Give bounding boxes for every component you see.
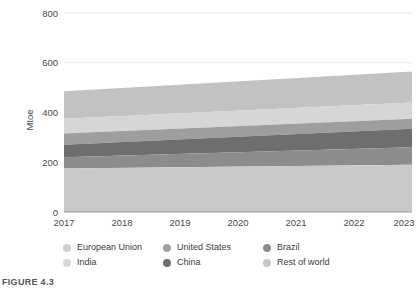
- x-tick-2020: 2020: [227, 217, 248, 228]
- legend-item-rest-of-world[interactable]: Rest of world: [263, 258, 373, 267]
- legend-label-china: China: [177, 258, 201, 267]
- legend-label-rest-of-world: Rest of world: [277, 258, 330, 267]
- legend-swatch-european-union-icon: [63, 244, 71, 252]
- x-tick-2022: 2022: [343, 217, 364, 228]
- y-tick-400: 400: [42, 107, 58, 118]
- legend-label-india: India: [77, 258, 97, 267]
- y-tick-800: 800: [42, 8, 58, 19]
- legend-row-1: European Union United States Brazil: [63, 240, 417, 255]
- series-bands: [64, 71, 412, 212]
- x-tick-2023: 2023: [393, 217, 414, 228]
- legend-swatch-united-states-icon: [163, 244, 171, 252]
- legend-swatch-rest-of-world-icon: [263, 259, 271, 267]
- chart-legend: European Union United States Brazil Indi…: [0, 240, 417, 276]
- y-tick-200: 200: [42, 157, 58, 168]
- legend-item-united-states[interactable]: United States: [163, 243, 263, 252]
- stacked-area-chart: 800 600 400 200 0 Mtoe 2017 2018 2019 20…: [0, 0, 417, 240]
- legend-label-brazil: Brazil: [277, 243, 300, 252]
- x-tick-2017: 2017: [53, 217, 74, 228]
- legend-label-european-union: European Union: [77, 243, 142, 252]
- chart-plot-area: 800 600 400 200 0 Mtoe 2017 2018 2019 20…: [0, 0, 417, 240]
- x-tick-2019: 2019: [169, 217, 190, 228]
- figure-caption: FIGURE 4.3: [2, 277, 54, 287]
- y-tick-0: 0: [53, 207, 58, 218]
- legend-row-2: India China Rest of world: [63, 255, 417, 270]
- legend-item-brazil[interactable]: Brazil: [263, 243, 373, 252]
- y-tick-600: 600: [42, 57, 58, 68]
- legend-item-china[interactable]: China: [163, 258, 263, 267]
- legend-swatch-china-icon: [163, 259, 171, 267]
- band-european-union: [64, 165, 412, 212]
- x-tick-2021: 2021: [285, 217, 306, 228]
- y-axis-label: Mtoe: [24, 109, 35, 130]
- legend-swatch-india-icon: [63, 259, 71, 267]
- legend-item-european-union[interactable]: European Union: [63, 243, 163, 252]
- legend-item-india[interactable]: India: [63, 258, 163, 267]
- x-tick-2018: 2018: [111, 217, 132, 228]
- legend-swatch-brazil-icon: [263, 244, 271, 252]
- legend-label-united-states: United States: [177, 243, 231, 252]
- figure-4-3: 800 600 400 200 0 Mtoe 2017 2018 2019 20…: [0, 0, 417, 293]
